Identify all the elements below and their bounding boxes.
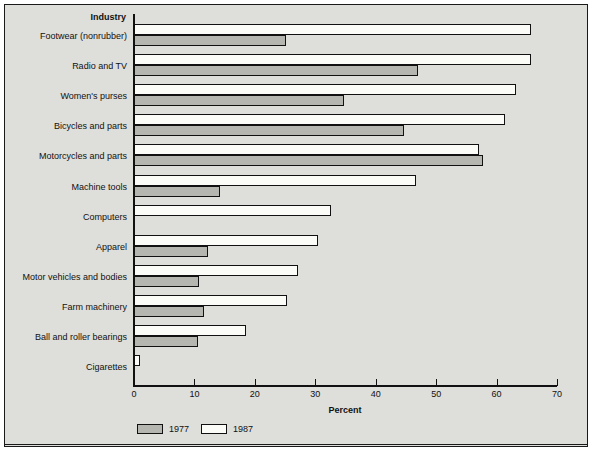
bar-1977 [134,35,286,46]
legend-label: 1987 [233,424,253,434]
category-label: Computers [1,212,127,222]
category-label: Ball and roller bearings [1,332,127,342]
legend-swatch [137,424,163,434]
bar-1977 [134,336,198,347]
x-axis-tick [255,379,256,386]
category-label: Footwear (nonrubber) [1,31,127,41]
chart-figure: Industry Footwear (nonrubber)Radio and T… [0,0,594,453]
x-axis-tick [376,379,377,386]
y-axis-line [133,14,135,386]
bar-1987 [134,84,516,95]
category-label: Apparel [1,242,127,252]
bar-1987 [134,24,531,35]
y-axis-title: Industry [0,12,126,22]
bar-1987 [134,265,298,276]
x-axis-tick [315,379,316,386]
bar-1977 [134,65,418,76]
x-axis-tick [194,379,195,386]
bar-1987 [134,325,246,336]
legend-swatch [201,424,227,434]
category-label: Machine tools [1,182,127,192]
category-axis-labels: Industry Footwear (nonrubber)Radio and T… [0,0,127,453]
bar-1977 [134,276,199,287]
x-axis-tick-label: 30 [300,389,330,400]
x-axis-tick [557,379,558,386]
bar-1977 [134,306,204,317]
legend-label: 1977 [169,424,189,434]
category-label: Bicycles and parts [1,121,127,131]
category-label: Radio and TV [1,61,127,71]
bar-1987 [134,175,416,186]
chart-legend: 19771987 [137,424,253,434]
bar-1987 [134,205,331,216]
category-label: Cigarettes [1,362,127,372]
bottom-rule [4,444,588,445]
bar-1987 [134,54,531,65]
x-axis-tick-label: 10 [179,389,209,400]
bar-1977 [134,186,220,197]
bar-1987 [134,235,318,246]
bar-1977 [134,246,208,257]
x-axis-tick [134,379,135,386]
x-axis-tick-label: 70 [542,389,572,400]
bar-1987 [134,114,505,125]
bar-1977 [134,125,404,136]
x-axis-tick-label: 50 [421,389,451,400]
x-axis-tick-label: 40 [361,389,391,400]
category-label: Women's purses [1,91,127,101]
x-axis-tick-label: 0 [119,389,149,400]
category-label: Farm machinery [1,302,127,312]
bar-1977 [134,155,483,166]
legend-item: 1987 [201,424,253,434]
x-axis-tick [497,379,498,386]
category-label: Motorcycles and parts [1,151,127,161]
legend-item: 1977 [137,424,189,434]
bar-1987 [134,295,287,306]
bar-1977 [134,95,344,106]
x-axis-tick [436,379,437,386]
plot-area: Industry Footwear (nonrubber)Radio and T… [0,0,594,453]
x-axis-title: Percent [133,405,557,415]
bar-1987 [134,144,479,155]
x-axis-tick-label: 20 [240,389,270,400]
category-label: Motor vehicles and bodies [1,272,127,282]
x-axis-line [133,385,557,387]
x-axis-tick-label: 60 [482,389,512,400]
